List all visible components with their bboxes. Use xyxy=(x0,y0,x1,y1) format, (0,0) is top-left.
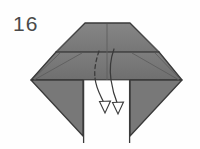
right-lower-flap-shape xyxy=(130,80,182,136)
left-lower-flap-shape xyxy=(31,80,83,136)
center-notch xyxy=(84,81,130,143)
middle-band-shape xyxy=(31,52,182,80)
origami-illustration xyxy=(0,0,200,149)
origami-diagram-figure: 16 xyxy=(0,0,200,149)
paper-body xyxy=(31,23,182,143)
